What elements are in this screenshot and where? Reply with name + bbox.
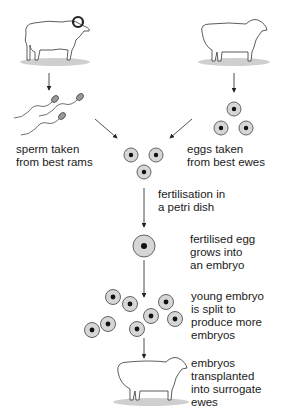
label-sperm-line-2: from best rams — [16, 156, 93, 169]
embryo-cell — [133, 235, 155, 257]
arrow-eggs-to-dish — [170, 119, 192, 138]
split-embryos — [85, 290, 183, 338]
ewe-illustration — [198, 20, 270, 67]
split-embryo — [123, 297, 138, 312]
label-fertilisation-line-1: fertilisation in — [158, 188, 225, 201]
egg-cell — [214, 121, 228, 135]
label-sperm-line-1: sperm taken — [16, 143, 93, 156]
arrow-sperm-to-dish — [95, 119, 117, 138]
sperm-cell — [14, 94, 60, 118]
fertilisation-cell-nucleus — [129, 153, 133, 157]
label-embryo: fertilised egg grows into an embryo — [190, 233, 255, 272]
label-transplant: embryos transplanted into surrogate ewes — [191, 357, 261, 409]
label-split-line-1: young embryo — [191, 290, 264, 303]
label-transplant-line-4: ewes — [191, 396, 261, 409]
label-split: young embryo is split to produce more em… — [191, 290, 264, 342]
ewe-body — [202, 20, 267, 62]
label-fertilisation-line-2: a petri dish — [158, 201, 225, 214]
split-embryo — [106, 290, 121, 305]
egg-cells — [214, 102, 253, 135]
split-embryo-nucleus — [173, 317, 178, 322]
label-split-line-4: embryos — [191, 329, 264, 342]
split-embryo — [159, 295, 174, 310]
label-embryo-line-2: grows into — [190, 246, 255, 259]
label-fertilisation: fertilisation in a petri dish — [158, 188, 225, 214]
surrogate-ewe-illustration — [113, 358, 189, 407]
diagram-canvas — [0, 0, 283, 411]
egg-cell-nucleus — [244, 126, 248, 130]
split-embryo-nucleus — [149, 314, 154, 319]
egg-cell-nucleus — [232, 107, 236, 111]
surrogate-shadow — [113, 398, 189, 406]
ewe-shadow — [198, 58, 270, 66]
label-eggs-line-1: eggs taken — [187, 143, 265, 156]
sperm-tail — [21, 119, 59, 135]
label-eggs-line-2: from best ewes — [187, 156, 265, 169]
split-embryo — [101, 317, 116, 332]
ram-shadow — [20, 58, 90, 66]
sperm-tail — [39, 100, 77, 116]
fertilisation-cell-nucleus — [142, 170, 146, 174]
split-embryo-nucleus — [128, 302, 133, 307]
split-embryo-nucleus — [106, 322, 111, 327]
embryo-cell — [133, 235, 155, 257]
embryo-cell-nucleus — [141, 243, 147, 249]
split-embryo-nucleus — [111, 295, 116, 300]
egg-cell-nucleus — [219, 126, 223, 130]
split-embryo-nucleus — [164, 300, 169, 305]
split-embryo — [85, 323, 100, 338]
sperm-tail — [14, 102, 52, 118]
split-embryo-nucleus — [90, 328, 95, 333]
fertilisation-cells — [124, 148, 163, 179]
split-embryo-nucleus — [135, 327, 140, 332]
label-split-line-3: produce more — [191, 316, 264, 329]
fertilisation-cell — [137, 165, 151, 179]
ram-illustration — [20, 17, 90, 66]
label-sperm: sperm taken from best rams — [16, 143, 93, 169]
label-embryo-line-3: an embryo — [190, 259, 255, 272]
label-embryo-line-1: fertilised egg — [190, 233, 255, 246]
split-embryo — [144, 309, 159, 324]
split-embryo — [130, 322, 145, 337]
egg-cell — [227, 102, 241, 116]
fertilisation-cell-nucleus — [154, 153, 158, 157]
egg-cell — [239, 121, 253, 135]
sperm-cell — [21, 111, 67, 135]
label-split-line-2: is split to — [191, 303, 264, 316]
fertilisation-cell — [149, 148, 163, 162]
split-embryo — [168, 312, 183, 327]
label-transplant-line-3: into surrogate — [191, 383, 261, 396]
label-transplant-line-1: embryos — [191, 357, 261, 370]
label-eggs: eggs taken from best ewes — [187, 143, 265, 169]
surrogate-body — [118, 358, 187, 401]
label-transplant-line-2: transplanted — [191, 370, 261, 383]
sperm-cells — [14, 92, 85, 135]
fertilisation-cell — [124, 148, 138, 162]
